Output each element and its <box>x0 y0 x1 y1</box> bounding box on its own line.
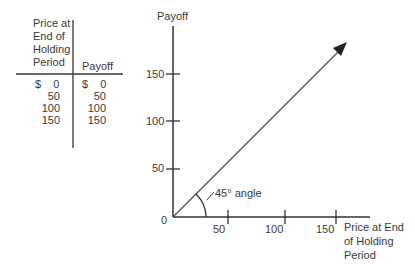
x-axis-label: Price at End of Holding Period <box>344 220 404 262</box>
angle-annotation: 45° angle <box>215 187 262 200</box>
angle-arc <box>196 194 206 217</box>
origin-label: 0 <box>161 214 167 227</box>
x-tick-label-100: 100 <box>265 223 283 236</box>
y-tick-label-150: 150 <box>146 68 164 81</box>
x-axis-label-line: of Holding <box>344 234 404 248</box>
x-axis-label-line: Period <box>344 248 404 262</box>
y-axis-label: Payoff <box>157 10 188 23</box>
angle-leader-line <box>207 192 214 200</box>
x-axis-label-line: Price at End <box>344 220 404 234</box>
x-tick-label-50: 50 <box>213 223 225 236</box>
arrowhead-icon <box>333 42 347 56</box>
x-tick-label-150: 150 <box>316 223 334 236</box>
y-tick-label-100: 100 <box>146 115 164 128</box>
y-tick-label-50: 50 <box>152 162 164 175</box>
